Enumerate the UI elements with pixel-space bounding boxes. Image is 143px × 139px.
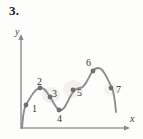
y-axis-label: y xyxy=(15,26,19,37)
point-label-1: 1 xyxy=(32,104,37,114)
point-label-5: 5 xyxy=(77,88,82,98)
data-point-4 xyxy=(57,108,62,113)
point-label-6: 6 xyxy=(86,58,91,68)
graph-plot xyxy=(0,0,143,139)
point-label-2: 2 xyxy=(37,77,42,87)
data-point-1 xyxy=(24,103,29,108)
x-axis-arrow xyxy=(124,125,130,130)
data-point-6 xyxy=(91,69,96,74)
data-point-5 xyxy=(71,88,76,93)
data-point-7 xyxy=(109,86,114,91)
point-label-3: 3 xyxy=(52,89,57,99)
x-axis-label: x xyxy=(130,113,134,124)
figure-container: 3. y x 1234567 xyxy=(0,0,143,139)
point-label-4: 4 xyxy=(57,114,62,124)
point-label-7: 7 xyxy=(116,85,121,95)
